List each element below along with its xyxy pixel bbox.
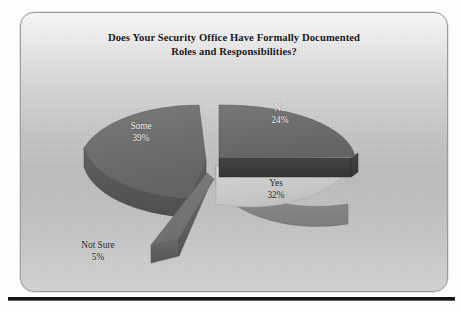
chart-title-line-1: Does Your Security Office Have Formally … [108,32,360,43]
chart-title: Does Your Security Office Have Formally … [21,31,447,58]
chart-title-line-2: Roles and Responsibilities? [21,45,447,59]
chart-panel: Does Your Security Office Have Formally … [20,12,448,292]
page-root: Does Your Security Office Have Formally … [0,0,461,311]
pie-slice-no-side [219,158,351,177]
pie-slice-no[interactable] [219,105,358,177]
pie-slice-no-top [219,105,355,158]
bottom-divider-rule-shadow [8,300,455,301]
